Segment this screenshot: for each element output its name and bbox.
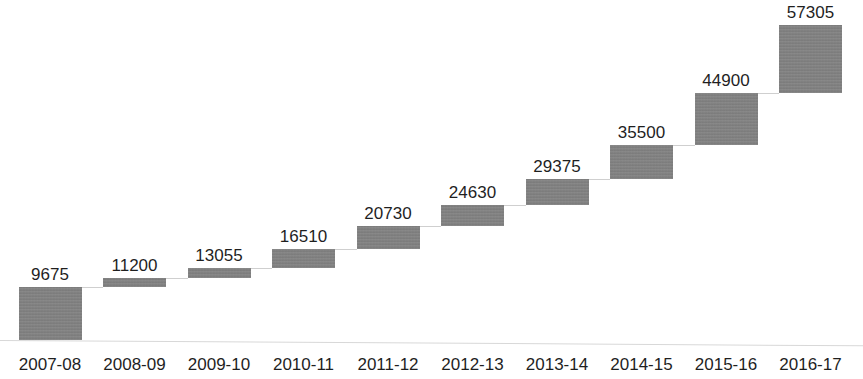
bar — [526, 179, 589, 205]
connector-line — [420, 226, 442, 227]
bar-value-label: 13055 — [159, 247, 279, 264]
bar — [272, 249, 335, 268]
bar-value-label: 57305 — [751, 4, 863, 21]
bar — [610, 145, 673, 179]
x-axis-label: 2008-09 — [90, 356, 180, 373]
x-axis-label: 2015-16 — [681, 356, 771, 373]
connector-line — [335, 249, 357, 250]
connector-line — [166, 278, 188, 279]
bar-value-label: 29375 — [497, 158, 617, 175]
bar — [695, 93, 758, 145]
waterfall-chart: 9675112001305516510207302463029375355004… — [0, 0, 863, 379]
plot-area: 9675112001305516510207302463029375355004… — [0, 0, 863, 379]
connector-line — [251, 268, 273, 269]
x-axis-label: 2013-14 — [512, 356, 602, 373]
connector-line — [589, 179, 611, 180]
bar — [19, 287, 82, 340]
bar-value-label: 35500 — [582, 124, 702, 141]
baseline-axis — [0, 340, 863, 346]
bar-value-label: 16510 — [244, 228, 364, 245]
connector-line — [673, 145, 695, 146]
bar — [357, 226, 420, 249]
x-axis-label: 2011-12 — [343, 356, 433, 373]
bar-value-label: 44900 — [666, 72, 786, 89]
x-axis-label: 2010-11 — [259, 356, 349, 373]
bar — [188, 268, 251, 278]
x-axis-label: 2007-08 — [5, 356, 95, 373]
x-axis-label: 2009-10 — [174, 356, 264, 373]
connector-line — [504, 205, 526, 206]
bar — [441, 205, 504, 226]
bar — [779, 25, 842, 93]
x-axis-label: 2012-13 — [428, 356, 518, 373]
connector-line — [758, 93, 780, 94]
connector-line — [82, 287, 104, 288]
bar-value-label: 20730 — [328, 205, 448, 222]
x-axis-label: 2014-15 — [597, 356, 687, 373]
bar — [103, 278, 166, 286]
x-axis-label: 2016-17 — [766, 356, 856, 373]
bar-value-label: 24630 — [413, 184, 533, 201]
